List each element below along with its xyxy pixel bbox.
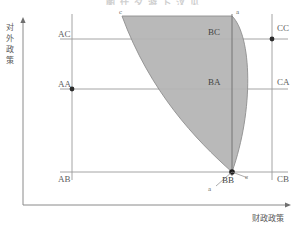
zone-label-ca: CA	[277, 78, 290, 87]
x-axis-title: 财政政策	[252, 212, 284, 223]
zone-label-bc: BC	[208, 28, 220, 37]
diagram-canvas	[0, 0, 306, 227]
y-axis-title-char-2: 外	[4, 33, 16, 44]
y-axis-title: 对 外 政 策	[4, 22, 16, 66]
zone-label-cc: CC	[277, 24, 289, 33]
y-axis-arrow	[20, 17, 25, 23]
zone-label-ac: AC	[58, 30, 71, 39]
curve-label-c-bottom: c	[245, 174, 248, 181]
curve-label-c-top: c	[119, 9, 122, 16]
zone-label-cb: CB	[277, 175, 289, 184]
y-axis-title-char-1: 对	[4, 22, 16, 33]
zone-label-aa: AA	[58, 80, 71, 89]
zone-label-ab: AB	[58, 175, 71, 184]
diagram-root: 图 什 夕 游 卜 汊 见	[0, 0, 306, 227]
curve-label-a-bottom: a	[208, 186, 211, 193]
zone-label-ba: BA	[208, 78, 221, 87]
shaded-feasible-region	[122, 16, 248, 172]
zone-label-bb: BB	[222, 176, 234, 185]
curve-label-a-top: a	[236, 9, 239, 16]
x-axis-arrow	[285, 202, 291, 207]
y-axis-title-char-3: 政	[4, 44, 16, 55]
y-axis-title-char-4: 策	[4, 55, 16, 66]
marker-point-cc	[270, 37, 275, 42]
feasible-region-group	[122, 16, 248, 172]
